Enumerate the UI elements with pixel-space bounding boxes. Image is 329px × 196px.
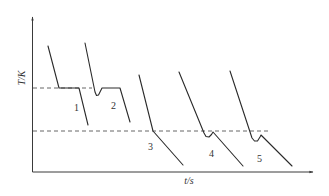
curve-3-label: 3: [148, 141, 153, 152]
x-axis-label: t/s: [184, 175, 194, 186]
curve-4-label: 4: [209, 148, 214, 159]
y-axis-label: T/K: [16, 69, 27, 85]
cooling-curve-diagram: T/K t/s 1 2 3 4 5: [0, 0, 329, 196]
curve-2-label: 2: [111, 100, 116, 111]
curve-5: 5: [230, 71, 292, 166]
curve-1-label: 1: [74, 102, 79, 113]
curve-3-line: [139, 75, 183, 165]
curve-4: 4: [179, 72, 243, 166]
curve-2: 2: [85, 43, 130, 122]
curve-3: 3: [139, 75, 183, 165]
curve-5-label: 5: [257, 153, 262, 164]
curve-2-line: [85, 43, 130, 122]
curve-5-line: [230, 71, 292, 166]
curve-1: 1: [48, 46, 88, 125]
curve-1-line: [48, 46, 88, 125]
